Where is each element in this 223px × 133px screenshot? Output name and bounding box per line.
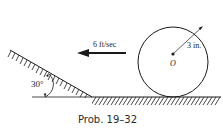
angle-arc (44, 74, 54, 98)
diagram-canvas: 30° (0, 0, 223, 133)
figure-caption: Prob. 19–32 (78, 114, 137, 125)
ground-surface (91, 97, 221, 105)
diagram-figure: 30° (0, 0, 223, 133)
velocity-arrow (77, 49, 126, 57)
angle-label: 30° (31, 79, 44, 89)
center-label: O (170, 59, 176, 68)
radius-label: 3 in. (187, 41, 201, 50)
inclined-plane (8, 50, 92, 98)
velocity-label: 6 ft/sec (93, 40, 117, 49)
